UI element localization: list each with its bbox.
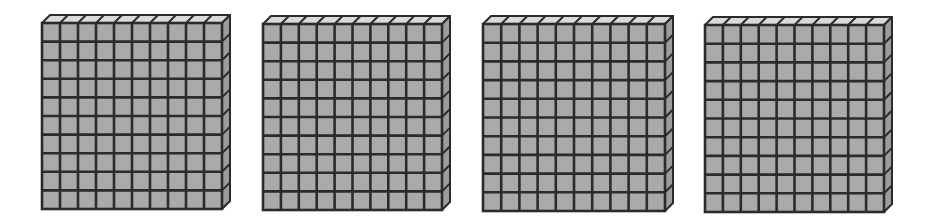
base-ten-hundreds-diagram bbox=[0, 0, 931, 223]
diagram-canvas bbox=[0, 0, 931, 223]
hundred-flat-block bbox=[42, 15, 230, 209]
blocks-layer bbox=[42, 15, 892, 212]
hundred-flat-block bbox=[705, 17, 892, 212]
hundred-flat-block bbox=[483, 16, 673, 211]
hundred-flat-block bbox=[263, 16, 450, 210]
